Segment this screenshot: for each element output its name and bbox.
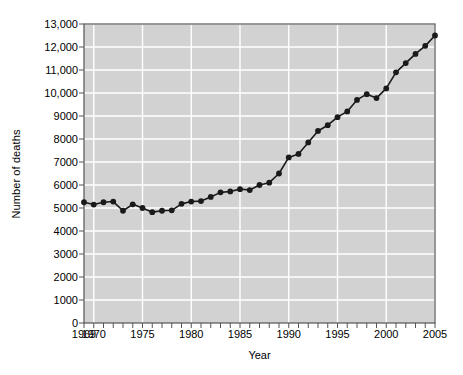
x-axis-tick-label: 1985 (228, 328, 252, 340)
x-axis-tick-label: 1975 (130, 328, 154, 340)
x-axis-tick-labels: 196919701975198019851990199520002005 (0, 0, 463, 375)
chart-figure: 010002000300040005000600070008000900010,… (0, 0, 463, 375)
x-axis-tick-label: 1970 (82, 328, 106, 340)
x-axis-title: Year (84, 345, 435, 363)
y-axis-title: Number of deaths (6, 24, 26, 323)
x-axis-tick-label: 2005 (423, 328, 447, 340)
x-axis-tick-label: 1980 (179, 328, 203, 340)
y-axis-title-text: Number of deaths (10, 129, 22, 218)
x-axis-tick-label: 1995 (325, 328, 349, 340)
x-axis-title-text: Year (248, 349, 270, 361)
x-axis-tick-label: 1990 (277, 328, 301, 340)
x-axis-tick-label: 2000 (374, 328, 398, 340)
